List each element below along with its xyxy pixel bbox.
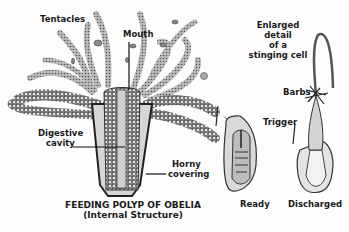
- polyp-body: [92, 88, 152, 197]
- label-trigger: Trigger: [263, 117, 297, 127]
- label-horny-covering: Horny covering: [168, 159, 209, 179]
- label-enlarged-detail: Enlarged detail of a stinging cell: [243, 20, 313, 60]
- label-ready: Ready: [240, 199, 270, 209]
- label-digestive-cavity: Digestive cavity: [38, 128, 83, 148]
- label-barbs: Barbs: [283, 87, 311, 97]
- stinging-cell-ready: [216, 106, 256, 191]
- obelia-diagram: Tentacles Mouth Digestive cavity Horny c…: [0, 0, 349, 232]
- label-mouth: Mouth: [123, 29, 153, 39]
- caption-title: FEEDING POLYP OF OBELIA: [58, 200, 208, 210]
- caption-subtitle: (Internal Structure): [58, 210, 208, 220]
- caption: FEEDING POLYP OF OBELIA (Internal Struct…: [58, 200, 208, 220]
- label-discharged: Discharged: [288, 199, 342, 209]
- label-tentacles: Tentacles: [40, 14, 85, 24]
